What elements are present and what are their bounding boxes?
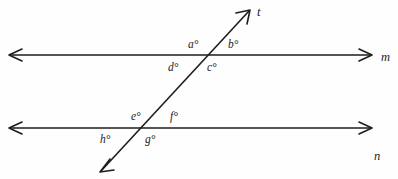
line-n xyxy=(9,122,372,134)
angle-label-a: a° xyxy=(188,39,198,51)
angle-label-d: d° xyxy=(168,62,178,74)
angle-label-f: f° xyxy=(170,111,178,123)
geometry-figure: a° b° d° c° e° f° h° g° m n t xyxy=(0,0,398,179)
angle-label-c: c° xyxy=(207,62,217,74)
angle-label-e: e° xyxy=(131,111,141,123)
angle-label-h: h° xyxy=(100,134,110,146)
line-t-segment xyxy=(101,11,249,171)
angle-label-g: g° xyxy=(145,134,155,146)
line-t-transversal xyxy=(100,10,250,172)
figure-canvas xyxy=(0,0,398,179)
line-m xyxy=(9,49,372,61)
line-label-m: m xyxy=(381,51,390,64)
line-label-t: t xyxy=(257,6,260,19)
angle-label-b: b° xyxy=(228,39,238,51)
line-label-n: n xyxy=(374,150,380,163)
